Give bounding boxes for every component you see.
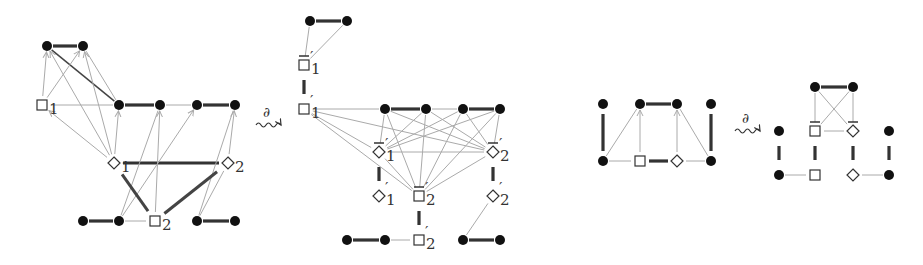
- edge-right-derived-t2-sqbar: [821, 92, 849, 125]
- node-left-derived-m4: [495, 104, 505, 114]
- dot-node-icon: [192, 100, 202, 110]
- dot-node-icon: [884, 170, 894, 180]
- node-subscript-label: 2: [426, 235, 436, 253]
- edge-left-derived-m2-d1bar: [386, 113, 422, 146]
- node-right-derived-t1: [810, 82, 820, 92]
- squiggle-arrow-icon: [735, 129, 760, 133]
- diagram-canvas: 1122′1′1′1′2′1′2′2′2 ∂∂: [0, 0, 923, 265]
- dot-node-icon: [380, 235, 390, 245]
- square-node-icon: [810, 170, 820, 180]
- node-left-original-a1: [42, 41, 52, 51]
- node-left-derived-m3: [458, 104, 468, 114]
- dot-node-icon: [598, 99, 608, 109]
- edge-left-original-s1-a2: [47, 51, 79, 98]
- node-subscript-label: 2: [426, 191, 436, 209]
- edge-left-derived-m3-s2bar: [423, 114, 460, 188]
- node-left-original-s1: 1: [37, 100, 59, 118]
- square-node-icon: [299, 60, 309, 70]
- node-subscript-label: 1: [121, 158, 131, 176]
- square-node-icon: [37, 100, 47, 110]
- node-right-original-tl: [598, 99, 608, 109]
- node-left-original-b3: [192, 216, 202, 226]
- diamond-node-icon: [847, 125, 859, 137]
- square-node-icon: [635, 156, 645, 166]
- dot-node-icon: [342, 235, 352, 245]
- dot-node-icon: [458, 235, 468, 245]
- node-left-original-m1: [114, 100, 124, 110]
- square-node-icon: [299, 104, 309, 114]
- node-left-derived-t1: [305, 16, 315, 26]
- node-left-original-m2: [155, 100, 165, 110]
- node-left-original-s2: 2: [150, 216, 172, 234]
- dot-node-icon: [421, 104, 431, 114]
- diamond-node-icon: [108, 157, 120, 169]
- edge-left-derived-t2-s1bar: [310, 25, 343, 58]
- node-right-derived-bl: [774, 170, 784, 180]
- node-right-derived-mr: [884, 126, 894, 136]
- square-node-icon: [414, 235, 424, 245]
- square-node-icon: [150, 216, 160, 226]
- square-node-icon: [810, 126, 820, 136]
- diamond-node-icon: [487, 146, 499, 158]
- dot-node-icon: [78, 216, 88, 226]
- transform-arrows: ∂∂: [256, 104, 760, 133]
- dot-node-icon: [635, 99, 645, 109]
- dot-node-icon: [848, 82, 858, 92]
- node-subscript-label: 1: [49, 100, 59, 118]
- node-right-derived-sqbar: [810, 122, 820, 136]
- node-left-derived-d1p: ′1: [373, 179, 396, 209]
- node-left-derived-d2p: ′2: [487, 179, 510, 209]
- edge-left-original-s1-a1: [43, 52, 47, 96]
- node-subscript-label: 2: [162, 216, 172, 234]
- dot-node-icon: [155, 100, 165, 110]
- edge-left-original-a1-m1: [52, 50, 115, 101]
- dot-node-icon: [305, 16, 315, 26]
- dot-node-icon: [598, 156, 608, 166]
- squiggle-arrow-icon: [256, 123, 281, 127]
- node-left-derived-b1: [342, 235, 352, 245]
- dot-node-icon: [230, 100, 240, 110]
- edge-left-derived-m1-d1bar: [380, 115, 384, 143]
- dot-node-icon: [774, 126, 784, 136]
- node-right-original-bl: [598, 156, 608, 166]
- diamond-node-icon: [373, 146, 385, 158]
- edge-left-derived-s1p-d1bar: [312, 113, 371, 147]
- dot-node-icon: [884, 126, 894, 136]
- dot-node-icon: [706, 156, 716, 166]
- dot-node-icon: [495, 104, 505, 114]
- edge-right-original-bl-t1: [606, 109, 636, 156]
- node-left-original-b1: [78, 216, 88, 226]
- dot-node-icon: [78, 41, 88, 51]
- diamond-node-icon: [222, 157, 234, 169]
- edge-right-derived-t1-dmbar: [819, 92, 847, 125]
- dot-node-icon: [495, 235, 505, 245]
- diamond-node-icon: [847, 169, 859, 181]
- node-subscript-label: 1: [386, 147, 396, 165]
- node-left-original-m4: [230, 100, 240, 110]
- node-left-derived-m1: [380, 104, 390, 114]
- node-right-original-t1: [635, 99, 645, 109]
- dot-node-icon: [380, 104, 390, 114]
- node-left-original-d2: 2: [222, 157, 245, 176]
- node-left-derived-s1bar: ′1: [299, 48, 321, 78]
- square-node-icon: [414, 191, 424, 201]
- node-right-derived-ml: [774, 126, 784, 136]
- node-left-derived-b3: [458, 235, 468, 245]
- node-right-derived-dm: [847, 169, 859, 181]
- node-left-derived-s2bar: ′2: [414, 179, 436, 209]
- edge-left-derived-t1-s1bar: [305, 27, 309, 56]
- node-subscript-label: 2: [500, 147, 510, 165]
- dot-node-icon: [42, 41, 52, 51]
- diamond-node-icon: [487, 190, 499, 202]
- dot-node-icon: [810, 82, 820, 92]
- edge-right-original-br-t2: [680, 109, 708, 156]
- edge-left-original-s2-d1: [122, 174, 148, 211]
- edge-left-derived-m4-s2bar: [425, 113, 496, 189]
- edge-left-derived-m2-s2bar: [420, 115, 426, 187]
- dot-node-icon: [342, 16, 352, 26]
- dot-node-icon: [230, 216, 240, 226]
- dot-node-icon: [114, 100, 124, 110]
- node-left-derived-d2bar: ′2: [487, 135, 510, 165]
- node-left-derived-b2: [380, 235, 390, 245]
- dot-node-icon: [672, 99, 682, 109]
